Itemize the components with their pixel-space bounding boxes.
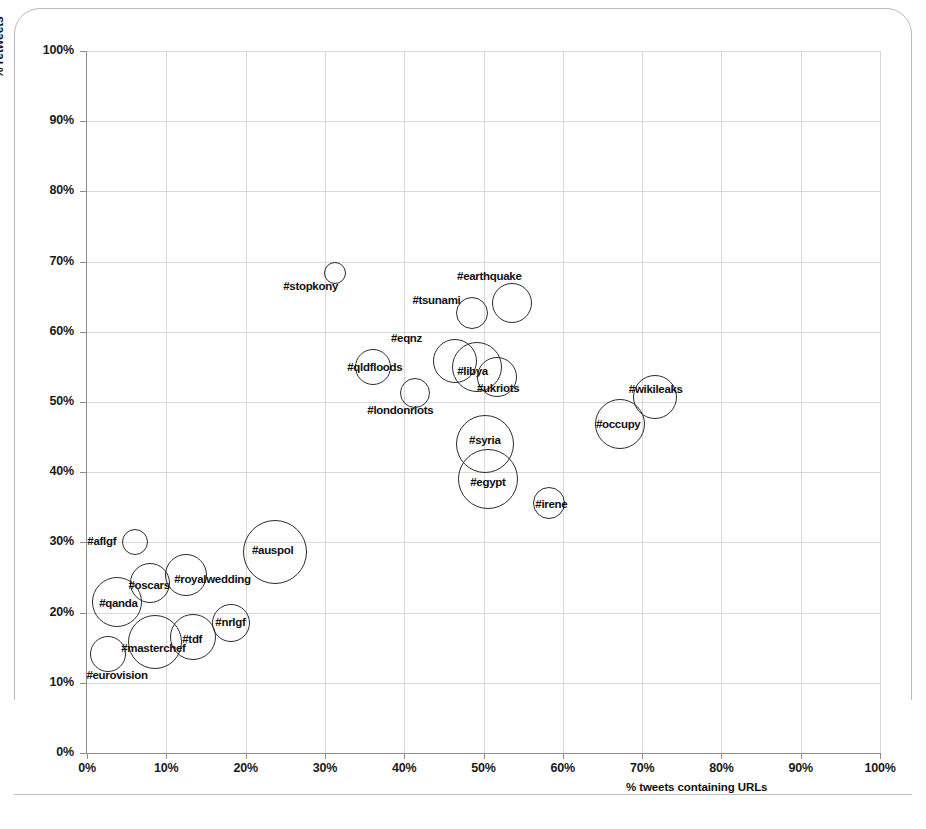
gridline-horizontal — [87, 613, 880, 614]
gridline-horizontal — [87, 51, 880, 52]
bubble-label-royalwedding: #royalwedding — [174, 574, 251, 586]
x-tick-mark — [484, 753, 485, 759]
y-tick-label: 10% — [14, 675, 74, 689]
bubble-label-syria: #syria — [469, 435, 500, 447]
bubble-tsunami[interactable] — [456, 297, 488, 329]
x-tick-mark — [404, 753, 405, 759]
bubble-label-auspol: #auspol — [252, 545, 293, 557]
bubble-chart: % retweets % tweets containing URLs 0%10… — [0, 0, 926, 800]
bubble-label-eurovision: #eurovision — [86, 670, 147, 682]
x-tick-label: 10% — [126, 761, 206, 775]
x-tick-mark — [246, 753, 247, 759]
x-tick-label: 40% — [364, 761, 444, 775]
x-tick-mark — [325, 753, 326, 759]
bubble-eurovision[interactable] — [90, 636, 126, 672]
bubble-label-wikileaks: #wikileaks — [629, 384, 683, 396]
y-tick-mark — [80, 191, 87, 192]
bubble-label-aflgf: #aflgf — [87, 536, 116, 548]
bubble-label-masterchef: #masterchef — [121, 643, 185, 655]
bubble-label-londonriots: #londonriots — [367, 405, 433, 417]
y-tick-label: 100% — [14, 43, 74, 57]
y-tick-label: 50% — [14, 394, 74, 408]
gridline-horizontal — [87, 332, 880, 333]
bubble-label-eqnz: #eqnz — [391, 333, 422, 345]
y-tick-mark — [80, 542, 87, 543]
bubble-label-irene: #irene — [535, 499, 567, 511]
y-tick-mark — [80, 683, 87, 684]
bubble-earthquake[interactable] — [492, 283, 532, 323]
bubble-label-egypt: #egypt — [470, 477, 505, 489]
scanned-page: % retweets % tweets containing URLs 0%10… — [0, 0, 926, 829]
x-tick-mark — [721, 753, 722, 759]
y-tick-mark — [80, 472, 87, 473]
bubble-label-occupy: #occupy — [596, 419, 641, 431]
y-tick-mark — [80, 121, 87, 122]
y-tick-label: 0% — [14, 745, 74, 759]
x-tick-mark — [87, 753, 88, 759]
x-tick-label: 60% — [523, 761, 603, 775]
x-tick-mark — [801, 753, 802, 759]
y-tick-mark — [80, 613, 87, 614]
x-tick-mark — [166, 753, 167, 759]
x-tick-label: 0% — [47, 761, 127, 775]
plot-area: #stopkony#earthquake#tsunami#eqnz#libya#… — [87, 51, 880, 753]
y-tick-label: 60% — [14, 324, 74, 338]
x-tick-label: 20% — [206, 761, 286, 775]
x-tick-mark — [642, 753, 643, 759]
bubble-label-earthquake: #earthquake — [457, 271, 521, 283]
y-tick-label: 90% — [14, 113, 74, 127]
y-tick-mark — [80, 51, 87, 52]
x-tick-label: 50% — [444, 761, 524, 775]
x-tick-label: 100% — [840, 761, 920, 775]
y-tick-label: 40% — [14, 464, 74, 478]
y-tick-mark — [80, 332, 87, 333]
bubble-label-ukriots: #ukriots — [477, 383, 519, 395]
bubble-label-nrlgf: #nrlgf — [215, 617, 245, 629]
x-axis-title: % tweets containing URLs — [626, 781, 767, 793]
bubble-label-stopkony: #stopkony — [283, 281, 338, 293]
y-axis-title: % retweets — [0, 16, 6, 78]
y-tick-label: 80% — [14, 183, 74, 197]
y-tick-mark — [80, 753, 87, 754]
y-tick-label: 30% — [14, 534, 74, 548]
x-tick-mark — [880, 753, 881, 759]
bubble-label-qldfloods: #qldfloods — [347, 362, 402, 374]
y-tick-mark — [80, 402, 87, 403]
gridline-horizontal — [87, 262, 880, 263]
y-tick-mark — [80, 262, 87, 263]
gridline-horizontal — [87, 542, 880, 543]
bubble-aflgf[interactable] — [122, 529, 148, 555]
x-tick-mark — [563, 753, 564, 759]
bubble-label-tsunami: #tsunami — [412, 295, 460, 307]
x-tick-label: 90% — [761, 761, 841, 775]
y-tick-label: 70% — [14, 254, 74, 268]
gridline-horizontal — [87, 402, 880, 403]
x-tick-label: 30% — [285, 761, 365, 775]
bubble-label-qanda: #qanda — [99, 598, 137, 610]
x-tick-label: 70% — [602, 761, 682, 775]
gridline-horizontal — [87, 683, 880, 684]
gridline-horizontal — [87, 191, 880, 192]
x-tick-label: 80% — [681, 761, 761, 775]
gridline-horizontal — [87, 121, 880, 122]
y-tick-label: 20% — [14, 605, 74, 619]
gridline-vertical — [880, 51, 881, 753]
